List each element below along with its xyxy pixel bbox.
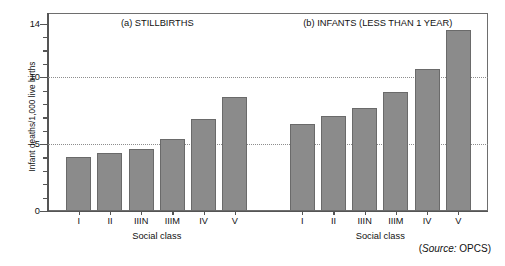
y-tick-minor-7	[43, 117, 49, 118]
x-tick-b-IIIM	[396, 211, 397, 215]
y-tick-major-5	[40, 144, 48, 145]
x-tick-a-IIIN	[141, 211, 142, 215]
bar-b-IIIN	[352, 108, 377, 211]
y-axis-line	[47, 13, 49, 212]
y-tick-minor-2	[43, 184, 49, 185]
x-axis-caption-b: Social class	[290, 231, 470, 241]
bar-b-II	[321, 116, 346, 211]
x-tick-b-V	[458, 211, 459, 215]
y-tick-minor-6	[43, 131, 49, 132]
y-tick-minor-12	[43, 50, 49, 51]
y-tick-minor-3	[43, 171, 49, 172]
bar-b-IV	[415, 69, 440, 211]
figure-chart: Infant deaths/1,000 live births 051014 I…	[0, 0, 505, 266]
x-tick-label-a-V: V	[215, 216, 255, 226]
y-tick-major-10	[40, 77, 48, 78]
y-tick-minor-11	[43, 64, 49, 65]
y-axis-title: Infant deaths/1,000 live births	[28, 17, 37, 217]
x-tick-b-IV	[427, 211, 428, 215]
y-tick-minor-13	[43, 37, 49, 38]
y-tick-minor-4	[43, 157, 49, 158]
bar-b-I	[290, 124, 315, 211]
bar-a-IIIM	[160, 139, 185, 211]
y-tick-label-0: 0	[6, 206, 40, 216]
y-tick-minor-1	[43, 198, 49, 199]
x-tick-b-I	[302, 211, 303, 215]
panel-title-b: (b) INFANTS (LESS THAN 1 YEAR)	[248, 18, 505, 28]
x-tick-a-I	[79, 211, 80, 215]
source-note: (Source: OPCS)	[419, 243, 491, 254]
y-tick-major-0	[40, 211, 48, 212]
y-tick-minor-8	[43, 104, 49, 105]
x-tick-b-IIIN	[365, 211, 366, 215]
source-italic-label: Source:	[422, 243, 456, 254]
y-tick-label-5: 5	[6, 139, 40, 149]
x-tick-a-V	[235, 211, 236, 215]
bar-a-I	[66, 157, 91, 211]
x-tick-label-b-V: V	[438, 216, 478, 226]
x-axis-caption-a: Social class	[67, 231, 247, 241]
x-tick-a-IV	[204, 211, 205, 215]
x-tick-b-II	[333, 211, 334, 215]
source-text: OPCS)	[457, 243, 491, 254]
x-tick-a-IIIM	[172, 211, 173, 215]
bar-a-V	[222, 97, 247, 211]
bar-a-IV	[191, 119, 216, 211]
y-tick-label-10: 10	[6, 72, 40, 82]
bar-a-II	[97, 153, 122, 211]
bar-a-IIIN	[129, 149, 154, 211]
bar-b-V	[446, 30, 471, 211]
x-tick-a-II	[110, 211, 111, 215]
y-tick-minor-9	[43, 91, 49, 92]
bar-b-IIIM	[383, 92, 408, 211]
